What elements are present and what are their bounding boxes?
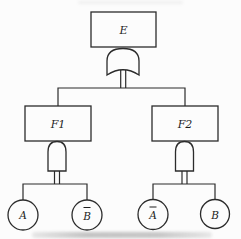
connector-left-bus: [23, 184, 87, 200]
basic-event-label-b-bar: B: [82, 210, 91, 222]
basic-event-label-a: A: [18, 209, 27, 221]
or-gate-icon: [107, 49, 139, 76]
basic-event-label-b: B: [210, 209, 219, 221]
top-event-label: E: [118, 24, 127, 37]
diagram-canvas: E F1 F2 A B A B: [0, 0, 241, 239]
intermediate-event-label-f2: F2: [177, 118, 193, 131]
cropped-print-remnant-top: [78, 1, 183, 4]
intermediate-event-label-f1: F1: [50, 118, 66, 131]
basic-event-label-a-bar: A: [148, 209, 157, 221]
connector-right-bus: [153, 184, 215, 200]
fault-tree-diagram: E F1 F2 A B A B: [0, 0, 241, 239]
cropped-caption-remnant: [32, 232, 212, 238]
and-gate-left-icon: [48, 142, 66, 172]
and-gate-right-icon: [176, 142, 194, 172]
connector-top-bus: [58, 88, 185, 106]
